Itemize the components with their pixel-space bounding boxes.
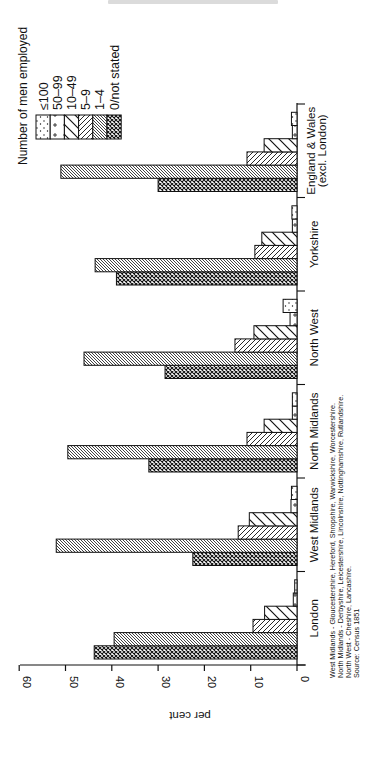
bar xyxy=(292,393,297,406)
legend-label: 5–9 xyxy=(79,89,93,110)
legend: ≤10050–9910–495–91–40/not stated xyxy=(36,45,122,139)
bar xyxy=(292,406,297,419)
bar xyxy=(95,259,297,272)
bar xyxy=(253,619,297,632)
legend-swatch xyxy=(50,115,64,139)
legend-swatch xyxy=(107,115,121,139)
bar xyxy=(193,552,297,565)
legend-label: 1–4 xyxy=(93,89,107,110)
category-label: London xyxy=(308,599,320,637)
bar-group xyxy=(94,580,297,659)
bar xyxy=(114,633,297,646)
bar xyxy=(292,126,297,139)
grouped-bar-chart: Number of men employed ≤10050–9910–495–9… xyxy=(0,0,366,761)
category-labels: LondonWest MidlandsNorth MidlandsNorth W… xyxy=(305,107,328,638)
bar xyxy=(238,526,297,539)
legend-label: 0/not stated xyxy=(108,45,122,110)
bar xyxy=(68,446,297,459)
bar xyxy=(291,112,297,125)
tick-label: 30 xyxy=(160,676,172,688)
legend-swatch xyxy=(36,115,50,139)
category-label: Yorkshire xyxy=(308,220,320,268)
legend-swatch xyxy=(79,115,93,139)
tick-label: 60 xyxy=(21,676,33,688)
bar-group xyxy=(56,486,297,565)
legend-label: ≤100 xyxy=(37,82,51,110)
bar xyxy=(262,232,297,245)
bar xyxy=(293,593,297,606)
bar xyxy=(94,646,297,659)
tick-label: 10 xyxy=(253,676,265,688)
legend-title: Number of men employed xyxy=(16,27,30,165)
bar xyxy=(61,165,297,178)
bar xyxy=(158,178,297,191)
tick-label: 20 xyxy=(206,676,218,688)
bar xyxy=(265,606,297,619)
bar xyxy=(56,539,297,552)
legend-label: 10–49 xyxy=(65,75,79,110)
footnote-line: Source: Census 1851 xyxy=(352,609,361,678)
bar xyxy=(264,419,297,432)
category-label: (excl. London) xyxy=(316,114,328,187)
legend-label: 50–99 xyxy=(51,75,65,110)
bar xyxy=(255,245,297,258)
bar xyxy=(116,272,297,285)
cropped-running-header xyxy=(108,0,278,4)
category-label: North West xyxy=(308,308,320,366)
bar xyxy=(247,152,297,165)
tick-label: 0 xyxy=(299,676,311,682)
bar xyxy=(247,432,297,445)
y-axis-title: per cent xyxy=(168,710,210,722)
bar xyxy=(264,139,297,152)
bar xyxy=(292,206,297,219)
bar xyxy=(283,299,297,312)
tick-label: 40 xyxy=(114,676,126,688)
bar xyxy=(165,365,297,378)
legend-swatch xyxy=(64,115,78,139)
bar xyxy=(291,486,297,499)
chart-page: Number of men employed ≤10050–9910–495–9… xyxy=(0,0,366,761)
category-label: West Midlands xyxy=(308,487,320,562)
tick-label: 50 xyxy=(68,676,80,688)
category-label: North Midlands xyxy=(308,392,320,470)
bar xyxy=(235,339,297,352)
bar xyxy=(295,580,297,593)
bar xyxy=(149,459,297,472)
legend-swatch xyxy=(93,115,107,139)
bar-group xyxy=(84,299,297,378)
bar xyxy=(290,313,297,326)
bar xyxy=(254,326,297,339)
bar-group xyxy=(95,206,297,285)
bar xyxy=(249,513,297,526)
bar-group xyxy=(68,393,297,472)
footnote: West Midlands - Gloucestershire, Herefor… xyxy=(328,395,361,678)
bar xyxy=(291,500,297,513)
bar xyxy=(84,352,297,365)
bar xyxy=(292,219,297,232)
bar-groups xyxy=(56,112,297,659)
